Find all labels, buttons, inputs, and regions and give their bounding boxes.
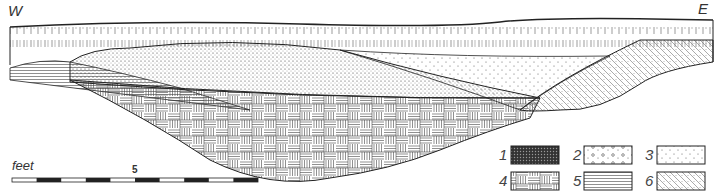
legend-swatch-6 bbox=[657, 172, 705, 190]
cross-section-diagram bbox=[0, 0, 717, 196]
legend-num-2: 2 bbox=[573, 146, 581, 163]
legend-num-3: 3 bbox=[645, 146, 653, 163]
legend-swatch-1 bbox=[511, 146, 559, 164]
legend-swatch-4 bbox=[511, 172, 559, 190]
legend-num-4: 4 bbox=[499, 172, 507, 189]
legend bbox=[511, 146, 705, 190]
scale-mid-label: 5 bbox=[132, 164, 138, 175]
scale-unit-label: feet bbox=[12, 158, 34, 173]
legend-swatch-2 bbox=[584, 146, 632, 164]
legend-swatch-5 bbox=[584, 172, 632, 190]
legend-num-1: 1 bbox=[499, 146, 507, 163]
scale-bar bbox=[12, 178, 258, 182]
legend-swatch-3 bbox=[657, 146, 705, 164]
legend-num-6: 6 bbox=[645, 172, 653, 189]
west-label: W bbox=[8, 2, 22, 19]
east-label: E bbox=[698, 0, 708, 17]
legend-num-5: 5 bbox=[573, 172, 581, 189]
